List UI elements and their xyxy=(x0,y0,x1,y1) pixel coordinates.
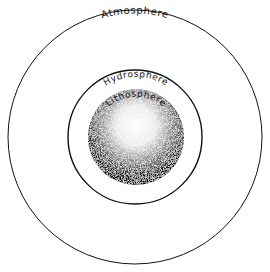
lithosphere-sphere xyxy=(88,89,184,185)
hydrosphere-label: Hydrosphere xyxy=(102,69,171,88)
atmosphere-label: Atmosphere xyxy=(100,5,170,21)
earth-spheres-diagram: Atmosphere Hydrosphere Lithosphere xyxy=(0,0,270,272)
